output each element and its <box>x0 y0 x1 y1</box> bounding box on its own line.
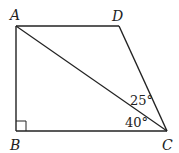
label-c: C <box>162 137 173 153</box>
label-a: A <box>8 7 20 23</box>
angle-label-dca: 25° <box>130 93 153 108</box>
label-d: D <box>111 8 123 24</box>
label-b: B <box>9 137 20 153</box>
angle-label-acb: 40° <box>125 115 148 130</box>
geometry-diagram: A D B C 25° 40° <box>0 0 179 153</box>
right-angle-marker <box>16 121 26 131</box>
